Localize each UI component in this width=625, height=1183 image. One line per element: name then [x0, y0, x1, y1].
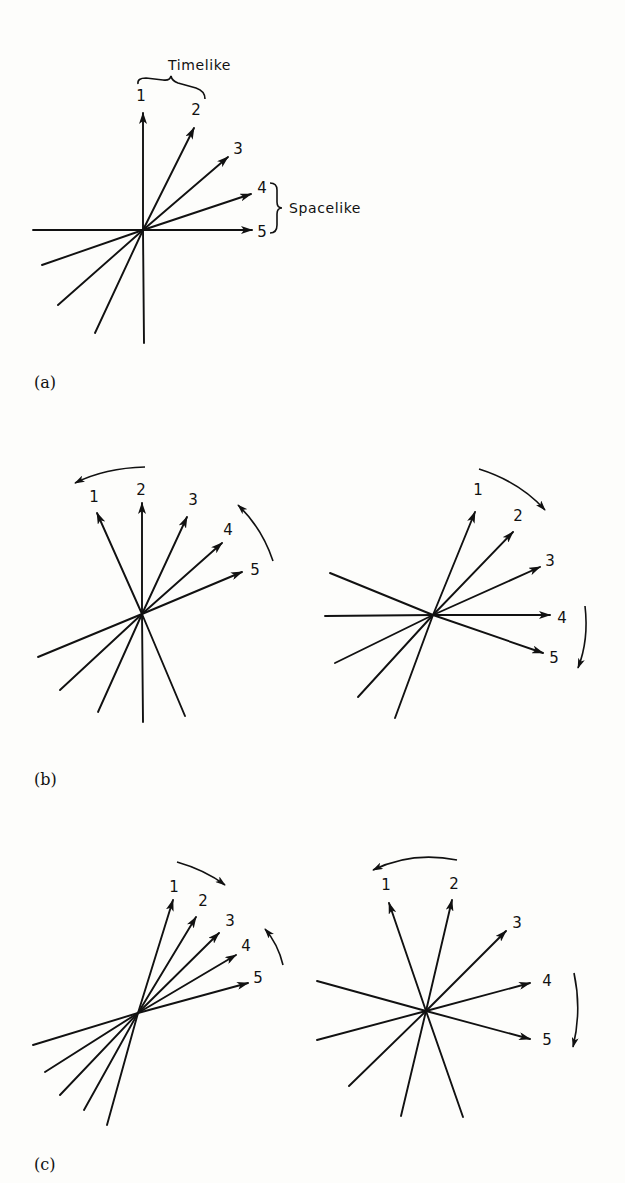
- worldline-extension: [58, 230, 143, 305]
- worldline-extension: [317, 981, 426, 1011]
- panel-a: 12345: [33, 87, 267, 343]
- spacelike-label: Spacelike: [289, 200, 361, 216]
- vector-arrow-3: [143, 157, 228, 230]
- timelike-brace: [138, 76, 205, 99]
- timelike-label: Timelike: [167, 57, 231, 73]
- vector-label-4: 4: [257, 179, 267, 197]
- rotation-arrow-icon: [238, 505, 273, 561]
- rotation-arrow-icon: [373, 857, 457, 870]
- vector-label-1: 1: [473, 481, 483, 499]
- worldline-extension: [330, 573, 433, 615]
- vector-label-1: 1: [89, 488, 99, 506]
- vector-label-3: 3: [188, 491, 198, 509]
- vector-arrow-5: [426, 1011, 530, 1039]
- rotation-arrow-icon: [573, 973, 578, 1047]
- rotation-arrow-icon: [75, 467, 145, 483]
- panel-label-a: (a): [34, 373, 56, 392]
- vector-label-2: 2: [449, 875, 459, 893]
- vector-arrow-4: [426, 983, 530, 1011]
- vector-label-2: 2: [513, 507, 523, 525]
- worldline-extension: [95, 230, 143, 333]
- vector-arrow-5: [433, 615, 543, 653]
- vector-label-2: 2: [191, 101, 201, 119]
- worldline-extension: [60, 614, 142, 690]
- vector-arrow-1: [97, 513, 142, 614]
- worldline-extension: [142, 614, 185, 716]
- panel-b-right: 12345: [325, 469, 586, 718]
- vector-label-3: 3: [233, 140, 243, 158]
- vector-arrow-3: [142, 517, 187, 614]
- vector-label-4: 4: [557, 609, 567, 627]
- worldline-extension: [358, 615, 433, 697]
- worldline-extension: [142, 614, 143, 722]
- rotation-arrow-icon: [479, 469, 545, 510]
- vector-arrow-5: [142, 572, 242, 614]
- vector-arrow-3: [426, 931, 506, 1011]
- panel-label-c: (c): [34, 1155, 55, 1174]
- panel-c-left: 12345: [33, 862, 283, 1125]
- vector-arrow-4: [142, 543, 222, 614]
- vector-label-1: 1: [136, 87, 146, 105]
- worldline-extension: [401, 1011, 426, 1116]
- panel-c-right: 12345: [317, 857, 578, 1117]
- spacetime-vectors-figure: 12345 12345 12345 12345 12345 Timelike S…: [0, 0, 625, 1183]
- vector-label-5: 5: [250, 561, 260, 579]
- vector-arrow-1: [389, 903, 426, 1011]
- vector-label-1: 1: [169, 878, 179, 896]
- vector-label-5: 5: [253, 969, 263, 987]
- vector-arrow-2: [426, 900, 452, 1011]
- vector-label-3: 3: [545, 552, 555, 570]
- worldline-extension: [143, 230, 144, 343]
- worldline-extension: [42, 230, 143, 265]
- vector-label-5: 5: [257, 223, 267, 241]
- vector-label-5: 5: [542, 1031, 552, 1049]
- rotation-arrow-icon: [177, 862, 225, 885]
- worldline-extension: [349, 1011, 426, 1086]
- panel-label-b: (b): [34, 770, 57, 789]
- worldline-extension: [317, 1011, 426, 1040]
- rotation-arrow-icon: [265, 929, 283, 965]
- vector-label-5: 5: [549, 649, 559, 667]
- vector-label-4: 4: [241, 937, 251, 955]
- vector-label-1: 1: [381, 876, 391, 894]
- vector-label-4: 4: [223, 521, 233, 539]
- vector-label-2: 2: [136, 481, 146, 499]
- vector-arrow-2: [433, 532, 513, 615]
- vector-label-3: 3: [512, 914, 522, 932]
- worldline-extension: [325, 615, 433, 616]
- spacelike-brace: [270, 183, 282, 233]
- worldline-extension: [426, 1011, 463, 1117]
- vector-label-2: 2: [198, 892, 208, 910]
- panel-b-left: 12345: [38, 467, 273, 722]
- vector-label-4: 4: [542, 972, 552, 990]
- vector-label-3: 3: [225, 912, 235, 930]
- rotation-arrow-icon: [578, 606, 586, 668]
